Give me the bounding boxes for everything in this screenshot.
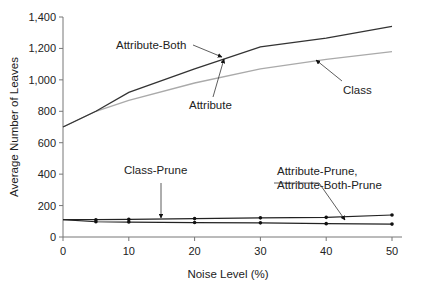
y-tick-label: 600 (38, 137, 56, 149)
x-tick-label: 50 (386, 245, 398, 257)
x-tick-label: 20 (188, 245, 200, 257)
label-attribute-prune: Attribute-Prune, (277, 165, 358, 177)
arrow-attribute (213, 59, 224, 97)
line-chart: 02004006008001,0001,2001,40001020304050 … (0, 0, 425, 282)
x-tick-label: 0 (60, 245, 66, 257)
y-axis-title: Average Number of Leaves (8, 57, 20, 197)
y-tick-label: 400 (38, 168, 56, 180)
data-point (193, 217, 197, 221)
series-lines (63, 26, 394, 225)
label-class: Class (343, 84, 372, 96)
x-tick-label: 10 (123, 245, 135, 257)
arrow-attribute-both (193, 45, 222, 57)
arrow-class (316, 60, 342, 81)
data-point (324, 216, 328, 220)
label-attribute-both-prune: Attribute-Both-Prune (277, 179, 382, 191)
series-line (63, 220, 392, 224)
x-axis-title: Noise Level (%) (187, 268, 268, 280)
data-point (390, 213, 394, 217)
series-line (63, 215, 392, 220)
y-tick-label: 1,200 (28, 42, 56, 54)
y-tick-label: 1,400 (28, 11, 56, 23)
y-tick-label: 0 (50, 231, 56, 243)
label-class-prune: Class-Prune (124, 164, 187, 176)
data-point (259, 216, 263, 220)
y-tick-label: 800 (38, 105, 56, 117)
label-attribute-both: Attribute-Both (116, 39, 186, 51)
series-line (63, 26, 392, 127)
annotations: Attribute-Both Attribute Class Class-Pru… (116, 39, 382, 220)
data-point (94, 218, 98, 222)
data-point (259, 221, 263, 225)
x-tick-label: 30 (254, 245, 266, 257)
data-point (390, 222, 394, 226)
y-tick-label: 1,000 (28, 74, 56, 86)
data-point (324, 222, 328, 226)
y-tick-label: 200 (38, 200, 56, 212)
x-tick-label: 40 (320, 245, 332, 257)
data-point (127, 218, 131, 222)
label-attribute: Attribute (189, 99, 232, 111)
data-point (193, 221, 197, 225)
